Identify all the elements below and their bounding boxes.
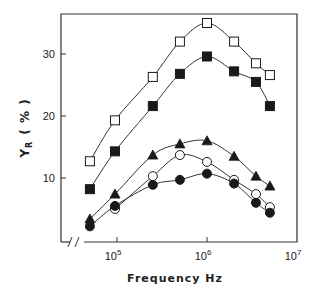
x-tick-label: 105 (105, 248, 122, 262)
open-square-marker (203, 19, 212, 28)
filled-triangle-marker (265, 181, 275, 190)
fit-curve (115, 154, 270, 209)
open-circle-marker (203, 157, 212, 166)
filled-circle-marker (85, 222, 94, 231)
filled-square-marker (251, 77, 260, 86)
open-square-marker (265, 71, 274, 80)
x-tick-label: 106 (195, 248, 212, 262)
filled-circle-marker (203, 169, 212, 178)
y-tick-label: 10 (43, 172, 55, 184)
x-tick-label: 107 (285, 248, 302, 262)
filled-circle-marker (265, 208, 274, 217)
open-square-marker (175, 37, 184, 46)
chart: 102030105106107 Frequency Hz YR( % ) (0, 0, 316, 291)
y-axis-title-unit: ( % ) (18, 98, 32, 134)
filled-square-marker (175, 69, 184, 78)
svg-text:YR( % ): YR( % ) (18, 98, 34, 158)
open-circle-marker (251, 190, 260, 199)
open-square-marker (230, 37, 239, 46)
open-circle-marker (148, 172, 157, 181)
open-square-marker (85, 157, 94, 166)
filled-square-marker (110, 147, 119, 156)
x-axis-title: Frequency Hz (127, 272, 223, 285)
y-axis-title: YR( % ) (18, 98, 34, 158)
filled-circle-marker (175, 175, 184, 184)
open-square-marker (251, 59, 260, 68)
filled-circle-marker (110, 201, 119, 210)
y-tick-label: 30 (43, 48, 55, 60)
filled-square-marker (85, 185, 94, 194)
axis-break-icon (68, 237, 79, 247)
open-square-marker (148, 72, 157, 81)
axis-ticks: 102030105106107 (43, 48, 302, 262)
filled-square-marker (265, 102, 274, 111)
y-axis-title-main: Y (18, 148, 32, 159)
open-circle-marker (175, 151, 184, 160)
filled-circle-marker (148, 180, 157, 189)
filled-square-marker (230, 67, 239, 76)
filled-circle-marker (251, 198, 260, 207)
filled-square-marker (203, 52, 212, 61)
filled-circle-marker (230, 179, 239, 188)
open-square-marker (110, 116, 119, 125)
y-tick-label: 20 (43, 110, 55, 122)
filled-triangle-marker (148, 150, 158, 159)
plot-border (61, 14, 297, 242)
y-axis-title-sub: R (25, 141, 34, 148)
data-markers (85, 19, 275, 231)
filled-square-marker (148, 102, 157, 111)
filled-triangle-marker (229, 151, 239, 160)
